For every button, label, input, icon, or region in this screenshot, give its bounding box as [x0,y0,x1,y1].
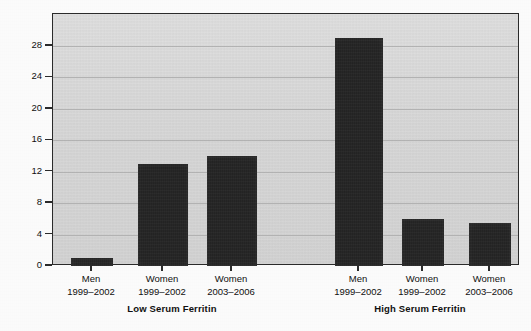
y-tick-label-24: 24 [14,71,42,81]
category-label-3: Women2003–2006 [186,273,276,298]
bar-2 [138,164,188,266]
plot-texture [53,14,518,264]
category-period-6: 2003–2006 [444,286,531,299]
y-tick-4 [45,233,52,234]
category-sex-6: Women [444,273,531,286]
y-tick-label-16: 16 [14,134,42,144]
y-tick-12 [45,170,52,171]
bar-6 [469,223,511,266]
y-tick-label-20: 20 [14,103,42,113]
x-tick-6 [488,265,489,271]
y-tick-28 [45,44,52,45]
gridline-24 [53,77,518,78]
y-tick-label-28: 28 [14,40,42,50]
bar-4 [335,38,383,266]
gridline-28 [53,46,518,47]
gridline-20 [53,109,518,110]
y-tick-24 [45,76,52,77]
gridline-12 [53,172,518,173]
gridline-16 [53,140,518,141]
x-tick-2 [161,265,162,271]
y-tick-label-4: 4 [14,229,42,239]
y-tick-8 [45,201,52,202]
category-sex-3: Women [186,273,276,286]
y-tick-label-0: 0 [14,260,42,270]
gridline-8 [53,203,518,204]
y-tick-20 [45,107,52,108]
bar-5 [402,219,444,266]
y-tick-16 [45,139,52,140]
chart-figure: Prevalence (%) 0481216202428 Men1999–200… [0,0,531,331]
y-tick-label-8: 8 [14,197,42,207]
category-label-6: Women2003–2006 [444,273,531,298]
x-tick-1 [90,265,91,271]
x-tick-5 [421,265,422,271]
x-tick-3 [230,265,231,271]
gridline-4 [53,235,518,236]
bar-3 [207,156,257,266]
y-tick-0 [45,264,52,265]
plot-area [52,13,519,265]
group-label-2: High Serum Ferritin [330,303,510,314]
y-tick-label-12: 12 [14,166,42,176]
category-period-3: 2003–2006 [186,286,276,299]
x-tick-4 [357,265,358,271]
group-label-1: Low Serum Ferritin [82,303,262,314]
bar-1 [71,258,113,266]
